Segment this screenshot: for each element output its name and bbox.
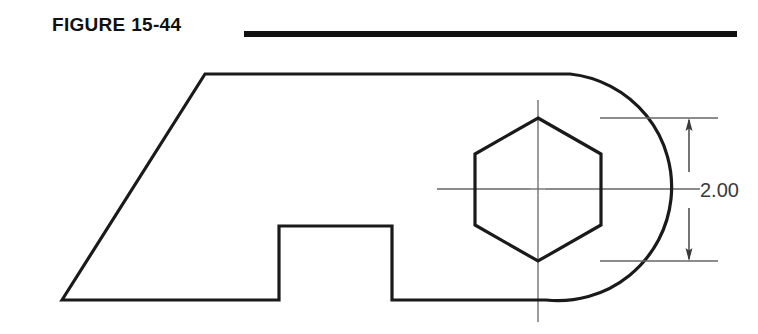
part-outline-path — [62, 74, 672, 301]
part-drawing: 2.00 — [0, 0, 758, 334]
dimension-value-text: 2.00 — [700, 179, 739, 201]
figure-sheet: FIGURE 15-44 — [0, 0, 758, 334]
part-outline-group — [62, 74, 672, 301]
